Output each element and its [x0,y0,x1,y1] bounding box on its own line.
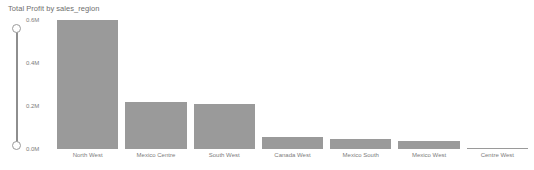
bar[interactable] [194,104,255,149]
x-axis-tick-label: South West [194,151,255,159]
bar-cell [330,20,391,149]
bar-cell [467,20,528,149]
bar[interactable] [330,139,391,149]
y-axis-tick-label: 0.4M [26,59,39,67]
bar[interactable] [467,148,528,149]
plot-area [57,20,528,149]
bar-cell [125,20,186,149]
y-axis-min-handle[interactable] [12,141,21,150]
bars-container [57,20,528,149]
bar[interactable] [398,141,459,149]
x-axis-tick-label: Mexico South [330,151,391,159]
bar-cell [194,20,255,149]
y-axis-tick-label: 0.2M [26,102,39,110]
bar-cell [262,20,323,149]
x-axis-tick-label: North West [57,151,118,159]
y-axis-tick-label: 0.0M [26,145,39,153]
bar-chart: Total Profit by sales_region 0.0M0.2M0.4… [0,0,534,170]
x-axis-tick-label: Centre West [467,151,528,159]
bar[interactable] [125,102,186,149]
y-axis-max-handle[interactable] [12,24,21,33]
x-axis-tick-label: Mexico West [398,151,459,159]
bar[interactable] [57,20,118,149]
bar-cell [398,20,459,149]
x-axis-tick-labels: North WestMexico CentreSouth WestCanada … [57,151,528,159]
bar-cell [57,20,118,149]
bar[interactable] [262,137,323,149]
x-axis-tick-label: Mexico Centre [125,151,186,159]
chart-title: Total Profit by sales_region [8,4,99,14]
y-axis-tick-label: 0.6M [26,16,39,24]
y-axis-track[interactable] [16,27,18,147]
x-axis-tick-label: Canada West [262,151,323,159]
y-axis-range-slider[interactable] [11,24,23,150]
